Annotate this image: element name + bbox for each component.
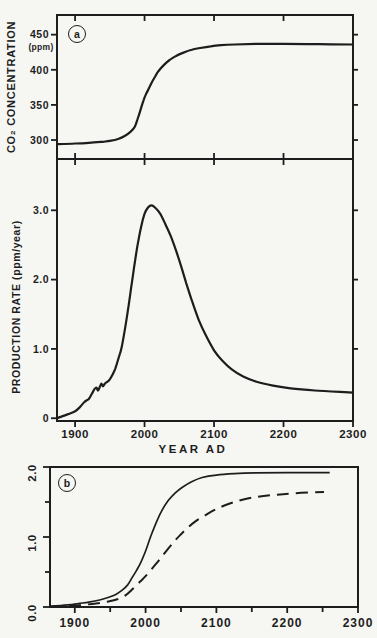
production-xtick-label: 1900	[61, 428, 89, 440]
panel-b-xtick-label: 2200	[272, 616, 303, 630]
co2-ytick-label: 400	[30, 64, 49, 76]
panel-b-xtick-label: 2000	[130, 616, 161, 630]
co2-axis-units: (ppm)	[28, 42, 53, 52]
co2-ytick-label: 450	[30, 28, 49, 40]
production-xtick-label: 2100	[200, 428, 228, 440]
production-ytick-label: 2.0	[33, 273, 49, 285]
production-ytick-label: 0	[43, 412, 49, 424]
panel-b-label: b	[58, 474, 76, 492]
co2-axis-title: CO₂ CONCENTRATION	[5, 21, 17, 153]
production-ytick-label: 3.0	[33, 204, 49, 216]
production-frame	[57, 159, 353, 421]
panel-b-dashed-curve	[50, 492, 324, 607]
panel-a-frame	[57, 15, 353, 159]
panel-b-ytick-label: 2.0	[26, 464, 38, 482]
panel-b-xtick-label: 2100	[201, 616, 232, 630]
chart-canvas: 30035040045001.02.03.0190020002100220023…	[0, 0, 377, 638]
panel-b-xtick-label: 1900	[59, 616, 90, 630]
panel-b-letter: b	[64, 478, 70, 489]
production-xtick-label: 2200	[270, 428, 298, 440]
production-xtick-label: 2300	[339, 428, 367, 440]
panel-b-solid-curve	[50, 473, 330, 607]
production-axis-title: PRODUCTION RATE (ppm/year)	[10, 220, 22, 394]
co2-concentration-curve	[57, 44, 353, 144]
panel-a-label: a	[68, 25, 86, 43]
production-ytick-label: 1.0	[33, 343, 49, 355]
production-rate-curve	[57, 205, 353, 418]
co2-ytick-label: 300	[30, 134, 49, 146]
panel-b-ytick-label: 1.0	[26, 534, 38, 552]
co2-ytick-label: 350	[30, 99, 49, 111]
figure-page: 30035040045001.02.03.0190020002100220023…	[0, 0, 377, 638]
production-xtick-label: 2000	[131, 428, 159, 440]
panel-b-frame	[50, 467, 358, 607]
panel-a-letter: a	[74, 29, 80, 40]
year-axis-title: YEAR AD	[159, 443, 228, 455]
panel-b-ytick-label: 0.0	[26, 604, 38, 622]
panel-b-xtick-label: 2300	[343, 616, 374, 630]
